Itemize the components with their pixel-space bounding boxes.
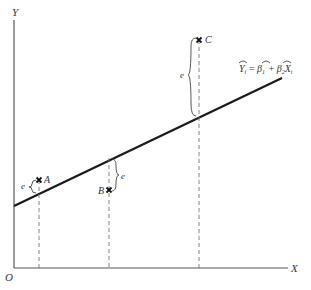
regression-line — [14, 78, 282, 206]
regression-diagram: Y X O A e B e C e Yi=β1+β2Xi — [0, 0, 311, 290]
point-c-label: C — [205, 34, 212, 45]
brace-c — [188, 38, 196, 116]
brace-a — [29, 180, 36, 193]
point-b-label: B — [98, 185, 104, 196]
svg-text:Yi=β1+β2Xi: Yi=β1+β2Xi — [239, 63, 293, 75]
point-c: C e — [180, 34, 212, 116]
point-a-label: A — [43, 174, 51, 185]
residual-a-label: e — [21, 181, 25, 191]
residual-b-label: e — [121, 171, 125, 181]
brace-b — [112, 159, 119, 191]
y-axis-label: Y — [12, 6, 20, 18]
regression-equation: Yi=β1+β2Xi — [239, 61, 293, 75]
origin-label: O — [5, 271, 13, 283]
residual-c-label: e — [180, 70, 184, 80]
x-axis-label: X — [290, 262, 299, 274]
